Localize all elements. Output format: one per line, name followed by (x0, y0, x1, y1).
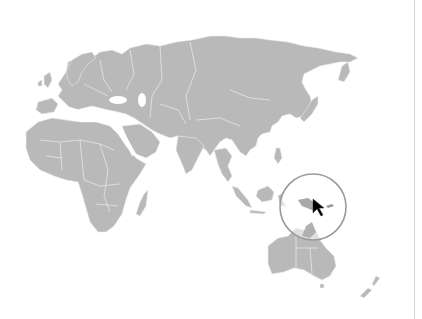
landmass-borneo (256, 186, 274, 202)
landmass-sumatra (232, 186, 252, 208)
landmass-kamchatka (338, 62, 350, 82)
landmass-java (250, 210, 266, 214)
world-map[interactable] (0, 0, 414, 319)
landmass-madagascar (136, 190, 148, 216)
right-pane (415, 0, 422, 319)
landmass-philippines (274, 148, 282, 164)
landmass-new-zealand (360, 276, 380, 298)
landmass-tasmania (320, 284, 324, 288)
